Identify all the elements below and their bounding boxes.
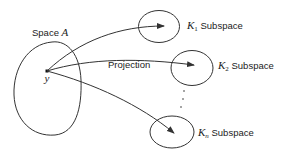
space-a-region — [14, 42, 81, 135]
space-a-label: Space A — [32, 26, 69, 38]
k2-subspace-label: K2 Subspace — [217, 59, 274, 73]
k2-subspace-region — [171, 51, 213, 86]
diagram-svg: Space A y Projection K1 Subspace K2 Subs… — [0, 0, 282, 156]
ellipsis-dots — [180, 90, 185, 108]
point-y-label: y — [44, 72, 50, 84]
arrow-to-kn — [47, 71, 174, 133]
projection-diagram: Space A y Projection K1 Subspace K2 Subs… — [0, 0, 282, 156]
k1-subspace-label: K1 Subspace — [186, 19, 243, 33]
projection-label: Projection — [108, 59, 150, 70]
kn-subspace-label: Kn Subspace — [197, 126, 254, 140]
